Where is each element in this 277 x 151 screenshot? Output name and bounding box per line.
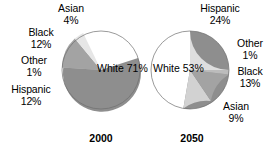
label-2000-black-percent: 12% [13, 39, 69, 51]
label-2000-asian: Asian 4% [43, 3, 99, 26]
label-2000-asian-name: Asian [43, 3, 99, 15]
label-2050-black-percent: 13% [226, 78, 274, 90]
label-2000-white-percent: 71% [127, 62, 148, 74]
label-2050-hispanic: Hispanic 24% [186, 3, 254, 26]
label-2050-asian-name: Asian [211, 101, 261, 113]
year-label-2050: 2050 [166, 132, 218, 144]
label-2050-other-percent: 1% [226, 50, 274, 62]
label-2050-white-percent: 53% [183, 62, 204, 74]
label-2050-black: Black 13% [226, 66, 274, 89]
label-2050-asian-percent: 9% [211, 113, 261, 125]
label-2050-white: White 53% [153, 63, 199, 75]
label-2000-other: Other 1% [8, 55, 60, 78]
label-2000-white: White 71% [97, 63, 143, 75]
label-2000-hispanic-percent: 12% [1, 96, 61, 108]
label-2050-white-name: White [153, 62, 180, 74]
label-2000-black: Black 12% [13, 27, 69, 50]
label-2000-asian-percent: 4% [43, 15, 99, 27]
label-2000-hispanic-name: Hispanic [1, 84, 61, 96]
label-2050-asian: Asian 9% [211, 101, 261, 124]
label-2000-white-name: White [97, 62, 124, 74]
pie-chart-figure: Asian 4% Black 12% Other 1% Hispanic 12%… [0, 0, 277, 151]
label-2000-hispanic: Hispanic 12% [1, 84, 61, 107]
label-2000-other-percent: 1% [8, 67, 60, 79]
label-2050-other-name: Other [226, 38, 274, 50]
year-label-2000: 2000 [75, 132, 127, 144]
label-2050-hispanic-percent: 24% [186, 15, 254, 27]
label-2000-other-name: Other [8, 55, 60, 67]
label-2000-black-name: Black [13, 27, 69, 39]
label-2050-other: Other 1% [226, 38, 274, 61]
label-2050-black-name: Black [226, 66, 274, 78]
label-2050-hispanic-name: Hispanic [186, 3, 254, 15]
